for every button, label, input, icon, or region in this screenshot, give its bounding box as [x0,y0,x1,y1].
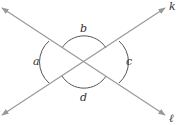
intersecting-lines-diagram: k ℓ a b c d [0,0,180,125]
label-angle-b: b [80,22,87,35]
label-k: k [169,0,176,13]
arc-d [62,76,106,88]
arc-b [62,36,106,48]
label-angle-a: a [33,55,40,68]
arc-a [40,41,49,83]
label-angle-c: c [126,55,132,68]
label-angle-d: d [80,91,87,104]
label-l: ℓ [169,112,174,125]
